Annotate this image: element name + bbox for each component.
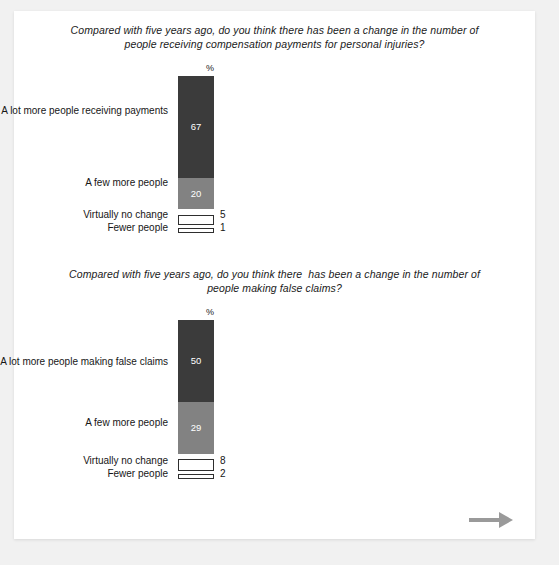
next-arrow-icon[interactable] [469, 511, 525, 529]
chart-1-segment-fewer-people [178, 228, 214, 233]
chart-2-label-a-few-more: A few more people [0, 417, 178, 430]
chart-1-segment-virtually-no-change [178, 215, 214, 225]
chart-2-plot: % A lot more people making false claims … [14, 307, 535, 497]
chart-2-title: Compared with five years ago, do you thi… [14, 267, 535, 295]
chart-2-category-labels: A lot more people making false claims A … [14, 307, 178, 497]
chart-compensation-payments: Compared with five years ago, do you thi… [14, 23, 535, 253]
chart-2-value-a-few-more: 29 [191, 423, 202, 433]
chart-2-label-a-lot-more: A lot more people making false claims [0, 356, 178, 369]
chart-1-plot: % A lot more people receiving payments A… [14, 63, 535, 253]
chart-1-label-a-lot-more: A lot more people receiving payments [0, 105, 178, 118]
chart-2-label-virtually-no-change: Virtually no change [0, 455, 178, 468]
chart-2-stacked-bar: 50 29 [178, 320, 214, 479]
chart-1-value-virtually-no-change: 5 [220, 209, 226, 221]
chart-2-segment-a-lot-more: 50 [178, 320, 214, 402]
chart-false-claims: Compared with five years ago, do you thi… [14, 267, 535, 497]
chart-2-segment-fewer-people [178, 474, 214, 479]
chart-1-segment-a-lot-more: 67 [178, 76, 214, 178]
chart-1-value-fewer-people: 1 [220, 222, 226, 234]
chart-1-stacked-bar: 67 20 [178, 76, 214, 233]
chart-2-value-a-lot-more: 50 [191, 356, 202, 366]
chart-1-value-a-few-more: 20 [191, 189, 202, 199]
chart-2-value-virtually-no-change: 8 [220, 455, 226, 467]
chart-1-label-virtually-no-change: Virtually no change [0, 209, 178, 222]
chart-1-axis-label: % [178, 63, 242, 73]
chart-2-label-fewer-people: Fewer people [0, 468, 178, 481]
chart-1-title: Compared with five years ago, do you thi… [14, 23, 535, 51]
chart-1-label-a-few-more: A few more people [0, 177, 178, 190]
chart-1-category-labels: A lot more people receiving payments A f… [14, 63, 178, 253]
arrow-shaft [469, 518, 501, 522]
chart-1-label-fewer-people: Fewer people [0, 222, 178, 235]
chart-1-segment-a-few-more: 20 [178, 178, 214, 209]
screenshot-canvas: Compared with five years ago, do you thi… [0, 0, 559, 565]
chart-1-value-a-lot-more: 67 [191, 122, 202, 132]
chart-2-segment-virtually-no-change [178, 459, 214, 471]
chart-2-segment-a-few-more: 29 [178, 402, 214, 454]
arrow-head [499, 512, 513, 528]
chart-2-value-fewer-people: 2 [220, 468, 226, 480]
chart-2-axis-label: % [178, 307, 242, 317]
document-page: Compared with five years ago, do you thi… [14, 11, 535, 539]
